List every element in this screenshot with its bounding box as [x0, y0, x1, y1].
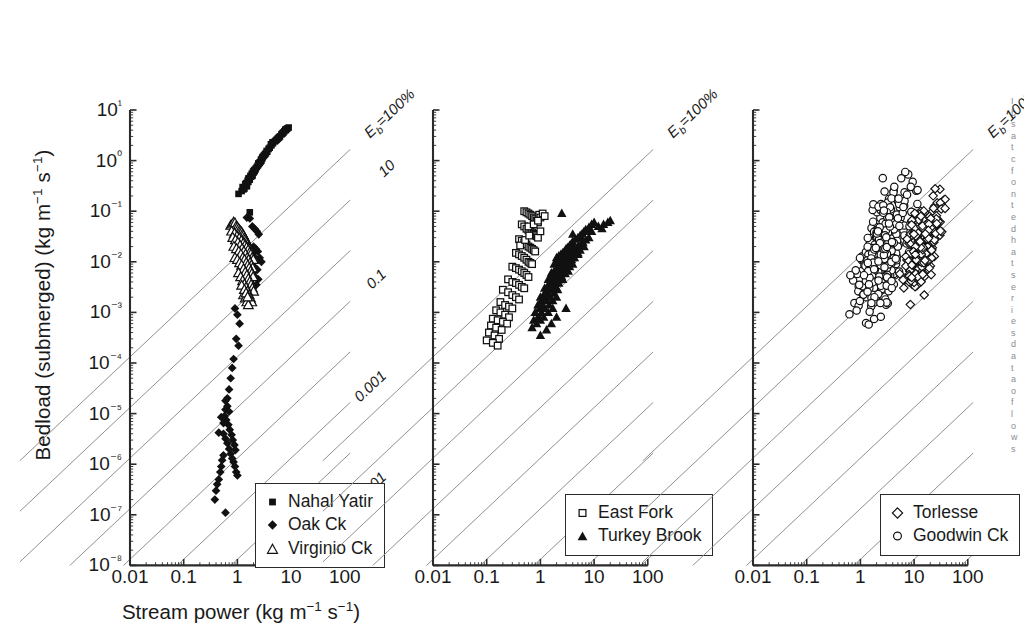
y-tick-label-4: 10⁻³ — [62, 301, 122, 323]
plot-panel-1: 10¹10⁰10⁻¹10⁻²10⁻³10⁻⁴10⁻⁵10⁻⁶10⁻⁷10⁻⁸0.… — [0, 0, 1024, 642]
legend-item-nahal-yatir[interactable]: Nahal Yatir — [265, 490, 373, 513]
legend-label: Virginio Ck — [288, 537, 372, 560]
y-tick-label-8: 10⁻⁷ — [62, 504, 122, 526]
open-triangle-icon — [265, 541, 280, 556]
y-tick-label-5: 10⁻⁴ — [62, 352, 122, 374]
open-triangle-legend-symbol — [265, 541, 280, 556]
legend-item-virginio-ck[interactable]: Virginio Ck — [265, 537, 373, 560]
filled-diamond-icon — [265, 517, 280, 532]
series-nahal-yatir — [235, 124, 292, 215]
filled-square-icon — [265, 494, 280, 509]
y-tick-label-3: 10⁻² — [62, 251, 122, 273]
y-tick-label-2: 10⁻¹ — [62, 200, 122, 222]
y-tick-label-7: 10⁻⁶ — [62, 453, 122, 475]
figure-root: Bedload (submerged) (kg m−1 s−1) Stream … — [0, 0, 1024, 642]
panel-1-canvas — [0, 0, 1024, 642]
legend-panel-1: Nahal YatirOak CkVirginio Ck — [255, 483, 385, 568]
x-tick-label-p1-0: 0.01 — [112, 566, 149, 588]
x-tick-label-p1-4: 100 — [329, 566, 361, 588]
legend-item-oak-ck[interactable]: Oak Ck — [265, 513, 373, 536]
legend-label: Nahal Yatir — [288, 490, 373, 513]
filled-diamond-legend-symbol — [265, 517, 280, 532]
y-tick-label-1: 10⁰ — [62, 150, 122, 172]
x-tick-label-p1-1: 0.1 — [170, 566, 196, 588]
filled-square-legend-symbol — [265, 494, 280, 509]
x-tick-label-p1-2: 1 — [232, 566, 243, 588]
y-tick-label-0: 10¹ — [62, 99, 122, 121]
legend-label: Oak Ck — [288, 513, 346, 536]
x-tick-label-p1-3: 10 — [281, 566, 302, 588]
y-tick-label-6: 10⁻⁵ — [62, 403, 122, 425]
